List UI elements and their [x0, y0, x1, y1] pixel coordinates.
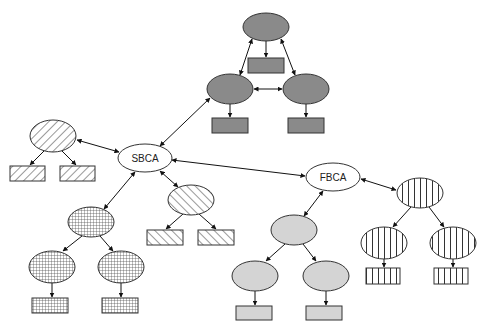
nodes-layer [10, 13, 476, 320]
ca-node[interactable] [98, 251, 144, 283]
arrow [199, 214, 216, 229]
ca-node[interactable] [232, 261, 278, 291]
end-entity-box[interactable] [60, 166, 95, 181]
ca-node[interactable] [361, 227, 407, 259]
bidirectional-arrow [160, 98, 210, 146]
ca-node[interactable] [283, 74, 329, 104]
end-entity-box[interactable] [434, 268, 468, 284]
ca-node[interactable] [243, 13, 289, 41]
bidirectional-arrow [172, 160, 305, 176]
ca-node[interactable] [68, 207, 114, 237]
arrow [61, 150, 76, 165]
arrow [266, 244, 285, 261]
hub-fbca-label: FBCA [320, 172, 347, 183]
ca-node[interactable] [271, 215, 317, 245]
cluster-crosshatch-tree [29, 207, 144, 313]
bidirectional-arrow [361, 179, 396, 190]
end-entity-box[interactable] [288, 118, 324, 133]
end-entity-box[interactable] [147, 230, 183, 245]
bidirectional-arrow [304, 191, 323, 216]
ca-node[interactable] [30, 120, 76, 152]
arrow [30, 150, 45, 165]
hub-fbca[interactable]: FBCA [306, 163, 360, 191]
end-entity-box[interactable] [366, 268, 400, 284]
hubs-layer: SBCA FBCA [118, 144, 360, 191]
ca-node[interactable] [29, 251, 75, 283]
arrow [63, 236, 82, 251]
arrow [166, 214, 183, 229]
cluster-left-hatch [10, 120, 95, 181]
ca-node[interactable] [168, 185, 214, 215]
arrow [429, 207, 444, 227]
arrow [303, 244, 316, 261]
end-entity-box[interactable] [212, 118, 248, 133]
end-entity-box[interactable] [198, 230, 234, 245]
bidirectional-arrow [104, 172, 135, 209]
hub-sbca-label: SBCA [131, 153, 159, 164]
hub-sbca[interactable]: SBCA [118, 144, 172, 172]
cluster-stripe-tree [361, 178, 476, 284]
ca-node[interactable] [303, 261, 349, 291]
end-entity-box[interactable] [236, 306, 272, 320]
end-entity-box[interactable] [306, 306, 342, 320]
bidirectional-arrow [160, 171, 178, 187]
bidirectional-arrow [77, 140, 119, 152]
pki-bridge-diagram: SBCA FBCA [0, 0, 484, 332]
ca-node[interactable] [207, 74, 253, 104]
arrow [393, 207, 411, 227]
ca-node[interactable] [430, 227, 476, 259]
arrow [100, 236, 113, 251]
cluster-top-mesh [207, 13, 329, 133]
end-entity-box[interactable] [32, 298, 68, 313]
end-entity-box[interactable] [248, 58, 284, 73]
end-entity-box[interactable] [10, 166, 45, 181]
cluster-light-tree [232, 215, 349, 320]
diagram-canvas: SBCA FBCA [0, 0, 484, 332]
ca-node[interactable] [397, 178, 443, 208]
cluster-sbca-child-hatch [147, 185, 234, 245]
end-entity-box[interactable] [102, 298, 138, 313]
